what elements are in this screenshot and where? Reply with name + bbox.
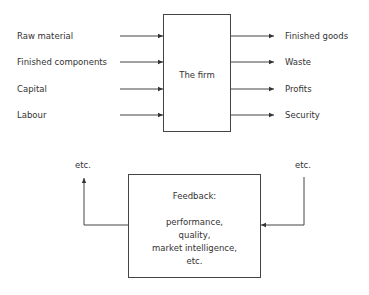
input-label: Raw material [17, 31, 73, 41]
output-label: Finished goods [285, 31, 348, 41]
feedback-line: performance, [128, 216, 261, 228]
input-label: Finished components [17, 57, 107, 67]
output-label: Security [285, 110, 320, 120]
input-label: Labour [17, 110, 46, 120]
feedback-line: quality, [128, 229, 261, 241]
feedback-title: Feedback: [128, 190, 261, 202]
feedback-line: etc. [128, 255, 261, 267]
feedback-right-label: etc. [295, 160, 311, 170]
feedback-left-label: etc. [75, 160, 91, 170]
feedback-out-arrow [84, 178, 128, 225]
output-label: Profits [285, 84, 312, 94]
feedback-line: market intelligence, [128, 242, 261, 254]
firm-label: The firm [163, 69, 231, 81]
output-label: Waste [285, 57, 311, 67]
feedback-in-arrow [261, 177, 304, 225]
input-label: Capital [17, 84, 47, 94]
